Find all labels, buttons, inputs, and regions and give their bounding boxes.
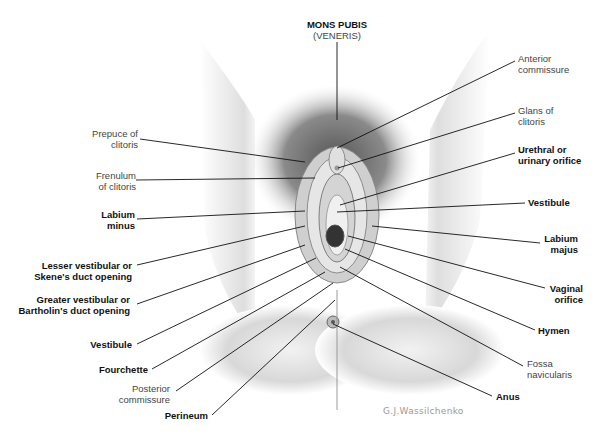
label-vestibule-right: Vestibule bbox=[528, 197, 598, 208]
label-posterior-commissure: Posterior commissure bbox=[80, 383, 170, 405]
label-vaginal-orifice: Vaginal orifice bbox=[540, 283, 583, 305]
label-fossa-navicularis: Fossa navicularis bbox=[527, 358, 597, 380]
label-anterior-commissure: Anterior commissure bbox=[518, 53, 598, 75]
label-fourchette: Fourchette bbox=[60, 364, 148, 375]
label-vestibule-left: Vestibule bbox=[60, 339, 132, 350]
artist-signature: G.J.Wassilchenko bbox=[383, 406, 464, 416]
label-labium-minus: Labium minus bbox=[60, 209, 135, 231]
illustration: MONS PUBIS (VENERIS) Prepuce of clitoris… bbox=[0, 0, 598, 434]
label-anus: Anus bbox=[496, 391, 536, 402]
label-perineum: Perineum bbox=[120, 410, 208, 421]
label-glans-of-clitoris: Glans of clitoris bbox=[518, 105, 598, 127]
label-prepuce-of-clitoris: Prepuce of clitoris bbox=[60, 128, 138, 150]
label-mons-pubis: MONS PUBIS (VENERIS) bbox=[300, 19, 374, 41]
label-lesser-vestibular: Lesser vestibular or Skene's duct openin… bbox=[0, 260, 132, 282]
label-urethral-orifice: Urethral or urinary orifice bbox=[518, 144, 598, 166]
label-frenulum-of-clitoris: Frenulum of clitoris bbox=[60, 170, 136, 192]
label-hymen: Hymen bbox=[538, 325, 588, 336]
label-labium-majus: Labium majus bbox=[530, 233, 578, 255]
label-greater-vestibular: Greater vestibular or Bartholin's duct o… bbox=[0, 294, 130, 316]
